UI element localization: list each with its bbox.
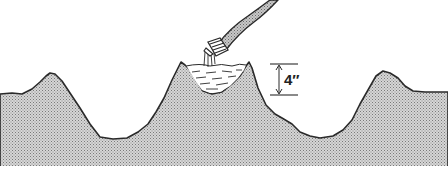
depth-label: 4″: [284, 71, 300, 88]
diagram-canvas: 4″: [0, 0, 448, 172]
hose: [204, 0, 278, 56]
depth-dimension: 4″: [270, 64, 300, 95]
